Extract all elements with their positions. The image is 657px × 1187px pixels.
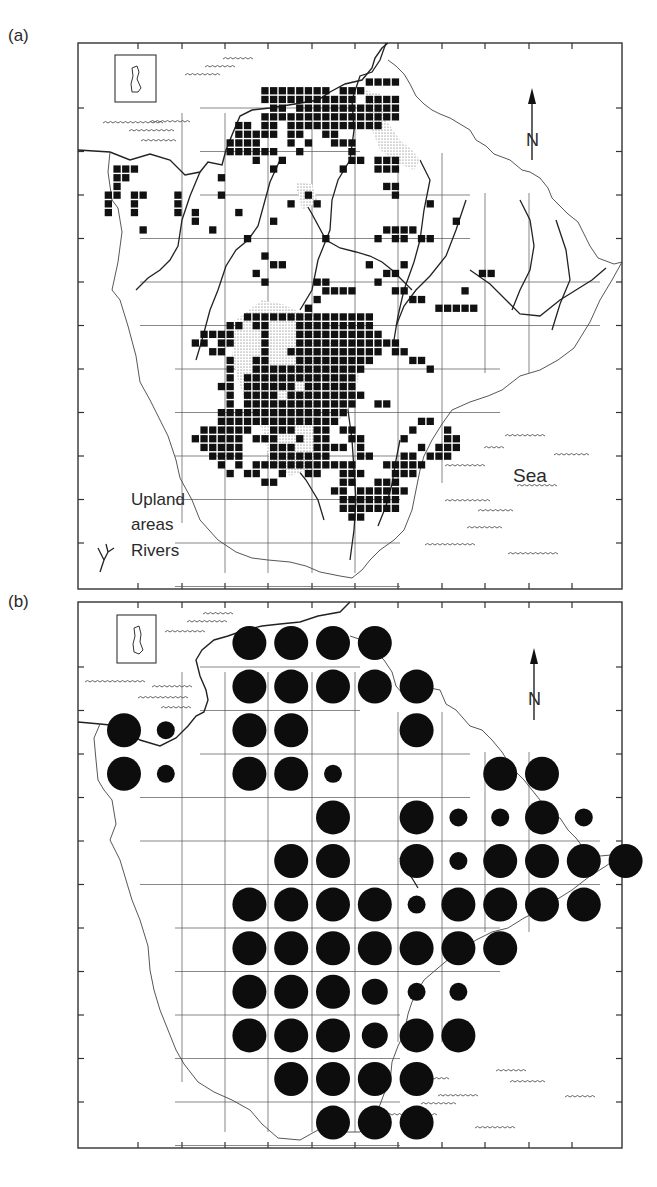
- map-b-inset-locator: [117, 615, 156, 663]
- figure-canvas: N Upland areas Rivers Sea N: [0, 0, 657, 1187]
- legend-upland-line1: Upland: [131, 490, 185, 509]
- map-a-inset-locator: [115, 55, 156, 102]
- legend-rivers-label: Rivers: [131, 541, 179, 560]
- map-b: N: [78, 602, 643, 1148]
- map-a-record-squares: [105, 78, 495, 520]
- map-a: N Upland areas Rivers Sea: [78, 43, 622, 589]
- map-b-distribution-circles: [107, 626, 643, 1140]
- legend-upland-line2: areas: [131, 515, 174, 534]
- north-label: N: [526, 130, 539, 150]
- map-a-grid: [140, 108, 600, 587]
- river-branch-icon: [98, 544, 114, 572]
- north-arrow-icon: [530, 648, 538, 720]
- north-label-b: N: [528, 689, 541, 709]
- sea-label: Sea: [513, 465, 547, 486]
- map-a-county-boundary: [108, 60, 622, 578]
